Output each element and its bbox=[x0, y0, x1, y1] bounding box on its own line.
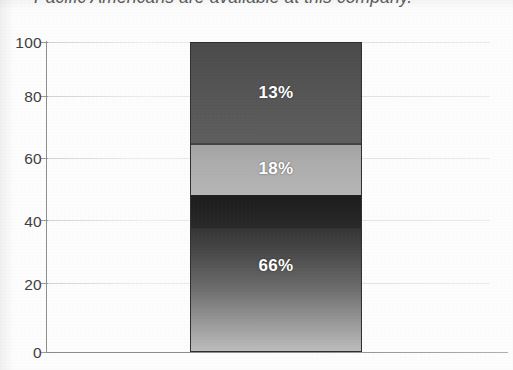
bar-segment-label-18: 18% bbox=[258, 159, 293, 179]
segment-divider bbox=[191, 227, 361, 228]
bar-segment-label-66: 66% bbox=[258, 256, 293, 276]
bar-segment-label-13: 13% bbox=[258, 83, 293, 103]
x-axis-line bbox=[46, 352, 508, 353]
y-tick-label-40: 40 bbox=[4, 213, 42, 231]
bar-segment-unlabeled[interactable] bbox=[191, 195, 361, 227]
y-tick-label-0: 0 bbox=[4, 344, 42, 362]
y-tick-label-20: 20 bbox=[4, 276, 42, 294]
y-tick-label-100: 100 bbox=[4, 34, 42, 52]
y-axis-line bbox=[46, 41, 47, 353]
y-tick-label-80: 80 bbox=[4, 88, 42, 106]
scanned-chart-page: Pacific Americans are available at this … bbox=[0, 0, 513, 370]
chart-plot-area: 100 80 60 40 20 0 13% 18% bbox=[0, 0, 513, 370]
segment-divider bbox=[191, 195, 361, 196]
y-tick-label-60: 60 bbox=[4, 150, 42, 168]
bar-segment-18[interactable]: 18% bbox=[191, 143, 361, 195]
stacked-bar[interactable]: 13% 18% 66% bbox=[190, 42, 362, 352]
bar-segment-13[interactable]: 13% bbox=[191, 43, 361, 143]
bar-segment-66[interactable]: 66% bbox=[191, 227, 361, 351]
segment-divider bbox=[191, 143, 361, 144]
